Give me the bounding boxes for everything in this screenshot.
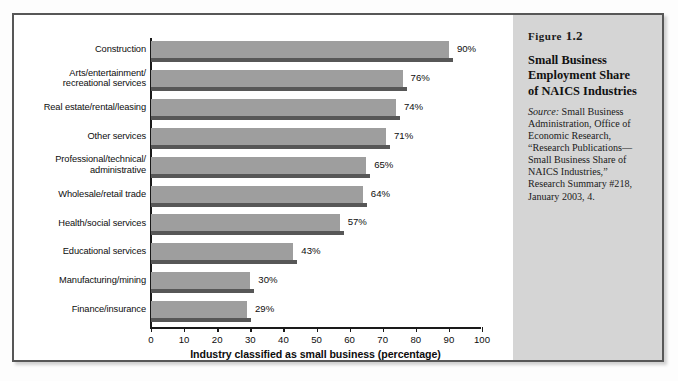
x-tick (184, 327, 185, 332)
x-tick (383, 327, 384, 332)
bar-value-label: 29% (255, 303, 274, 314)
caption-title: Small BusinessEmployment Shareof NAICS I… (528, 53, 646, 99)
bar-shadow (151, 231, 344, 235)
category-label: Educational services (12, 246, 146, 257)
x-tick-label: 40 (278, 334, 289, 345)
x-axis-line (150, 327, 481, 329)
bar-shadow (151, 289, 254, 293)
category-label-line: Arts/entertainment/ (12, 68, 146, 79)
category-label-line: Real estate/rental/leasing (12, 102, 146, 113)
x-tick-label: 90 (444, 334, 455, 345)
bar (151, 99, 396, 116)
category-label: Manufacturing/mining (12, 275, 146, 286)
x-tick-label: 50 (311, 334, 322, 345)
caption-inner: Figure 1.2 Small BusinessEmployment Shar… (528, 28, 646, 203)
bar-value-label: 65% (374, 159, 393, 170)
category-label-line: recreational services (12, 78, 146, 89)
bar (151, 41, 449, 58)
bar (151, 157, 366, 174)
category-label-line: Health/social services (12, 218, 146, 229)
chart-panel: ConstructionArts/entertainment/recreatio… (14, 15, 513, 360)
bar-shadow (151, 318, 251, 322)
bar-value-label: 71% (394, 130, 413, 141)
category-label-line: administrative (12, 165, 146, 176)
x-tick (250, 327, 251, 332)
figure-number: Figure 1.2 (528, 28, 646, 44)
bar-shadow (151, 116, 400, 120)
x-tick (317, 327, 318, 332)
bar-shadow (151, 174, 370, 178)
category-label: Construction (12, 44, 146, 55)
category-label-line: Wholesale/retail trade (12, 189, 146, 200)
figure-number-word: Figure (528, 30, 562, 42)
x-tick (482, 327, 483, 332)
category-label-line: Construction (12, 44, 146, 55)
bar-value-label: 64% (371, 188, 390, 199)
x-tick-label: 100 (474, 334, 490, 345)
x-axis-title: Industry classified as small business (p… (150, 348, 481, 360)
bar (151, 214, 340, 231)
plot-area: 90%76%74%71%65%64%57%43%30%29% 010203040… (150, 15, 510, 360)
source-text: Small Business Administration, Office of… (528, 106, 632, 202)
bar (151, 301, 247, 318)
caption-title-line: of NAICS Industries (528, 84, 646, 99)
category-label-line: Finance/insurance (12, 304, 146, 315)
x-tick-label: 10 (179, 334, 190, 345)
bar-shadow (151, 145, 390, 149)
category-label: Real estate/rental/leasing (12, 102, 146, 113)
bar-value-label: 74% (404, 101, 423, 112)
category-label: Health/social services (12, 218, 146, 229)
figure-number-value: 1.2 (566, 28, 583, 43)
source-label: Source: (528, 106, 559, 117)
caption-source: Source: Small Business Administration, O… (528, 106, 646, 203)
figure-frame: ConstructionArts/entertainment/recreatio… (12, 13, 664, 362)
category-label: Other services (12, 131, 146, 142)
x-tick-label: 0 (148, 334, 153, 345)
bar-value-label: 43% (301, 245, 320, 256)
bar (151, 186, 363, 203)
x-tick-label: 30 (245, 334, 256, 345)
category-label-line: Manufacturing/mining (12, 275, 146, 286)
bar (151, 272, 250, 289)
x-tick (350, 327, 351, 332)
x-tick (151, 327, 152, 332)
x-tick (416, 327, 417, 332)
category-label: Wholesale/retail trade (12, 189, 146, 200)
category-labels-column: ConstructionArts/entertainment/recreatio… (22, 15, 146, 360)
category-label: Arts/entertainment/recreational services (12, 68, 146, 90)
x-tick (283, 327, 284, 332)
bar-value-label: 57% (348, 216, 367, 227)
x-tick-label: 70 (377, 334, 388, 345)
bar (151, 243, 293, 260)
bar-shadow (151, 58, 453, 62)
caption-title-line: Small Business (528, 53, 646, 68)
x-tick-label: 20 (212, 334, 223, 345)
category-label-line: Educational services (12, 246, 146, 257)
bar-shadow (151, 260, 297, 264)
bar (151, 128, 386, 145)
bar-value-label: 76% (411, 72, 430, 83)
category-label-line: Professional/technical/ (12, 154, 146, 165)
bar-shadow (151, 203, 367, 207)
category-label: Finance/insurance (12, 304, 146, 315)
x-tick-label: 60 (344, 334, 355, 345)
bar-value-label: 30% (258, 274, 277, 285)
caption-panel: Figure 1.2 Small BusinessEmployment Shar… (513, 15, 662, 360)
bar-shadow (151, 87, 407, 91)
x-tick (217, 327, 218, 332)
category-label: Professional/technical/administrative (12, 154, 146, 176)
x-tick (449, 327, 450, 332)
category-label-line: Other services (12, 131, 146, 142)
x-tick-label: 80 (410, 334, 421, 345)
caption-title-line: Employment Share (528, 68, 646, 83)
bar-value-label: 90% (457, 43, 476, 54)
bar (151, 70, 403, 87)
figure-root: ConstructionArts/entertainment/recreatio… (0, 0, 678, 381)
